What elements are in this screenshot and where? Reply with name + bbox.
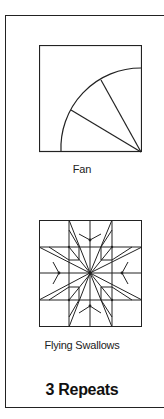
fan-caption: Fan (0, 163, 164, 175)
flying-swallows-caption: Flying Swallows (0, 339, 164, 351)
repeats-label: 3 Repeats (0, 381, 164, 399)
fan-block-diagram (39, 45, 142, 148)
flying-swallows-block-diagram (39, 220, 142, 323)
